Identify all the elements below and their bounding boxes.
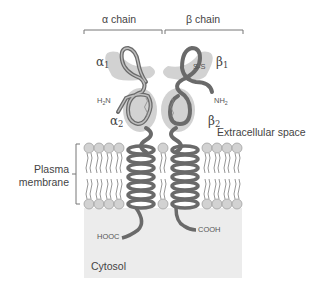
- lipid-heads-bottom: [84, 199, 242, 209]
- alpha1-domain: [105, 52, 155, 81]
- h2n-terminus-label: H2N: [97, 97, 111, 106]
- plasma-membrane-label-line2: membrane: [18, 177, 69, 188]
- hooc-terminus-label: HOOC: [97, 233, 120, 241]
- membrane-bracket: [72, 144, 80, 204]
- beta-chain-label: β chain: [186, 14, 220, 25]
- nh2-terminus-label: NH2: [214, 97, 228, 106]
- lipid-bilayer: [84, 143, 242, 209]
- alpha1-label: α1: [96, 56, 109, 69]
- mhc-class-ii-diagram: [0, 0, 318, 290]
- ss-bond-beta1-label: S-S: [193, 63, 206, 71]
- lipid-tails: [86, 153, 240, 199]
- extracellular-space-label: Extracellular space: [217, 127, 306, 138]
- lipid-heads-top: [84, 143, 242, 153]
- alpha-chain-label: α chain: [102, 14, 136, 25]
- cooh-terminus-label: COOH: [198, 226, 221, 234]
- plasma-membrane-label-line1: Plasma: [33, 164, 69, 175]
- alpha2-label: α2: [110, 115, 123, 128]
- chain-bracket: [84, 30, 243, 34]
- beta1-label: β1: [216, 56, 228, 69]
- cytosol-label: Cytosol: [91, 261, 126, 272]
